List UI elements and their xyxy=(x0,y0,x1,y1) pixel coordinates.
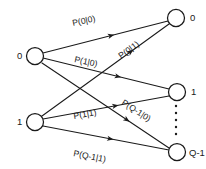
transition-edge xyxy=(43,58,169,89)
edge-label-edge-1-1: P(1|1) xyxy=(73,107,98,121)
ellipsis-dot xyxy=(175,126,177,128)
transition-edge xyxy=(42,24,169,116)
edge-label-edge-1-0: P(0|1) xyxy=(116,39,141,61)
node-out-0 xyxy=(168,10,185,27)
node-out-1 xyxy=(169,84,186,101)
node-label-out-0: 0 xyxy=(190,12,195,23)
ellipsis-dot xyxy=(175,112,177,114)
arrowhead-icon xyxy=(107,32,115,39)
node-in-0 xyxy=(27,48,44,65)
node-label-in-0: 0 xyxy=(17,50,22,61)
edge-label-edge-0-0: P(0|0) xyxy=(71,13,96,28)
ellipsis-dot xyxy=(175,105,177,107)
channel-diagram-canvas: 0101Q-1 P(0|0)P(1|0)P(Q-1|0)P(0|1)P(1|1)… xyxy=(0,0,206,169)
arrowhead-icon xyxy=(114,73,122,80)
node-out-q1 xyxy=(169,144,186,161)
node-in-1 xyxy=(27,114,44,131)
ellipsis-dot xyxy=(175,133,177,135)
vertical-ellipsis xyxy=(175,105,177,135)
node-label-in-1: 1 xyxy=(17,116,22,127)
node-label-out-1: 1 xyxy=(191,86,196,97)
arrowhead-icon xyxy=(123,116,131,124)
edge-label-edge-1-q1: P(Q-1|1) xyxy=(73,148,107,164)
transition-edge xyxy=(43,126,169,150)
transition-edge xyxy=(43,21,168,53)
ellipsis-dot xyxy=(175,119,177,121)
edges-layer xyxy=(42,21,169,150)
channel-transition-figure: 0101Q-1 P(0|0)P(1|0)P(Q-1|0)P(0|1)P(1|1)… xyxy=(0,0,206,169)
transition-edge xyxy=(42,63,169,148)
node-label-out-q1: Q-1 xyxy=(189,147,205,158)
